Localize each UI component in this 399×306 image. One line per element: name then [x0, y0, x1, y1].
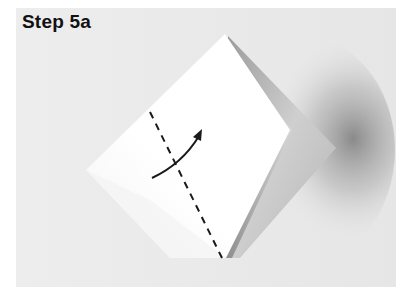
origami-illustration: [0, 0, 399, 306]
step-title: Step 5a: [22, 11, 91, 33]
